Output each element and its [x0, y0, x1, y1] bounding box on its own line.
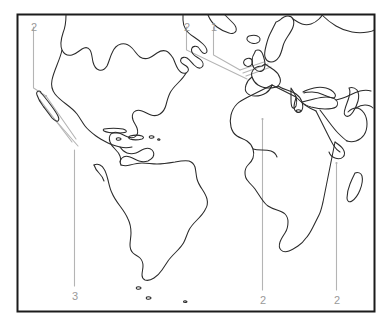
island-south-georgia	[184, 301, 187, 303]
coast-africa	[230, 85, 335, 252]
coast-anatolia	[302, 97, 338, 109]
coast-baltic	[293, 15, 322, 25]
leader-dot-africa	[261, 118, 263, 120]
leader-label-bottom-left: 3	[72, 291, 78, 302]
island-lesser-antilles	[158, 139, 160, 140]
leader-line-topleft-main	[34, 27, 47, 96]
island-great-britain	[252, 50, 265, 71]
leader-line-europe-1	[214, 27, 241, 70]
island-puerto-rico	[149, 136, 154, 138]
world-map-svg	[0, 0, 391, 328]
leader-label-bottom-africa: 2	[260, 295, 266, 306]
leader-label-top-left: 2	[31, 22, 37, 33]
coast-europe-west	[252, 64, 281, 88]
leader-lines	[34, 27, 338, 290]
leader-dot-east-africa	[335, 162, 337, 164]
coast-gulf-of-guinea	[253, 149, 277, 157]
leader-label-top-center-1: 1	[211, 22, 217, 33]
figure-canvas: 2 2 1 3 2 2	[0, 0, 391, 328]
island-iceland	[247, 35, 260, 43]
coast-asia-northeast	[336, 90, 371, 100]
coast-arabia	[347, 108, 367, 142]
island-ireland	[244, 58, 253, 66]
leader-label-top-center-2: 2	[184, 22, 190, 33]
coast-red-sea-east	[320, 110, 347, 141]
coast-baja-california	[37, 91, 59, 121]
coast-persian-gulf	[356, 105, 373, 108]
island-jamaica	[116, 138, 121, 140]
island-tierra-del-fuego	[146, 297, 151, 299]
leader-label-bottom-right: 2	[334, 295, 340, 306]
coast-scandinavia	[265, 16, 294, 62]
leader-line-europe-2	[187, 27, 248, 79]
coast-asia-north-edge	[322, 15, 374, 33]
coast-south-america	[94, 161, 207, 281]
coast-central-america	[120, 147, 154, 165]
leader-line-topleft-branch-c	[44, 107, 78, 146]
island-falklands	[136, 287, 141, 289]
island-madagascar	[347, 173, 362, 202]
coast-horn-of-africa	[329, 142, 345, 159]
coast-black-sea	[303, 87, 335, 98]
leader-dot-a	[45, 95, 47, 97]
coastlines	[37, 15, 374, 302]
island-sicily	[296, 110, 301, 112]
leader-line-topleft-branch-a	[46, 96, 76, 139]
map-frame	[18, 15, 375, 312]
